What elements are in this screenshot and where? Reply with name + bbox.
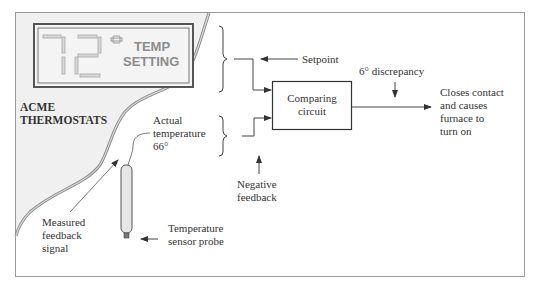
probe-label-1: Temperature [168, 222, 224, 234]
measured-label-3: signal [42, 242, 68, 254]
discrepancy-label: 6° discrepancy [359, 65, 425, 77]
setpoint-label: Setpoint [302, 53, 339, 65]
comparing-label-1: Comparing [287, 92, 337, 104]
display-label-temp: TEMP [134, 39, 170, 54]
diagram-canvas: TEMP SETTING ACME THERMOSTATS Setpoint C… [0, 0, 538, 289]
output-label-2: and causes [440, 99, 487, 111]
measured-label-1: Measured [42, 216, 86, 228]
output-label-4: turn on [440, 125, 472, 137]
brand-line-1: ACME [20, 101, 55, 113]
output-label-1: Closes contact [440, 86, 504, 98]
temp-display: TEMP SETTING [34, 24, 193, 87]
actual-temp-label-3: 66° [153, 140, 168, 152]
measured-label-2: feedback [42, 229, 82, 241]
brand-line-2: THERMOSTATS [20, 114, 107, 126]
probe-label-2: sensor probe [168, 235, 224, 247]
temperature-probe-icon [121, 165, 132, 238]
comparing-label-2: circuit [298, 105, 326, 117]
display-label-setting: SETTING [123, 54, 179, 69]
negative-feedback-label-2: feedback [237, 191, 277, 203]
diagram-svg: TEMP SETTING ACME THERMOSTATS Setpoint C… [0, 0, 538, 289]
output-label-3: furnace to [440, 112, 485, 124]
actual-temp-label-2: temperature [153, 127, 206, 139]
actual-temp-label-1: Actual [153, 114, 182, 126]
negative-feedback-label-1: Negative [237, 178, 277, 190]
